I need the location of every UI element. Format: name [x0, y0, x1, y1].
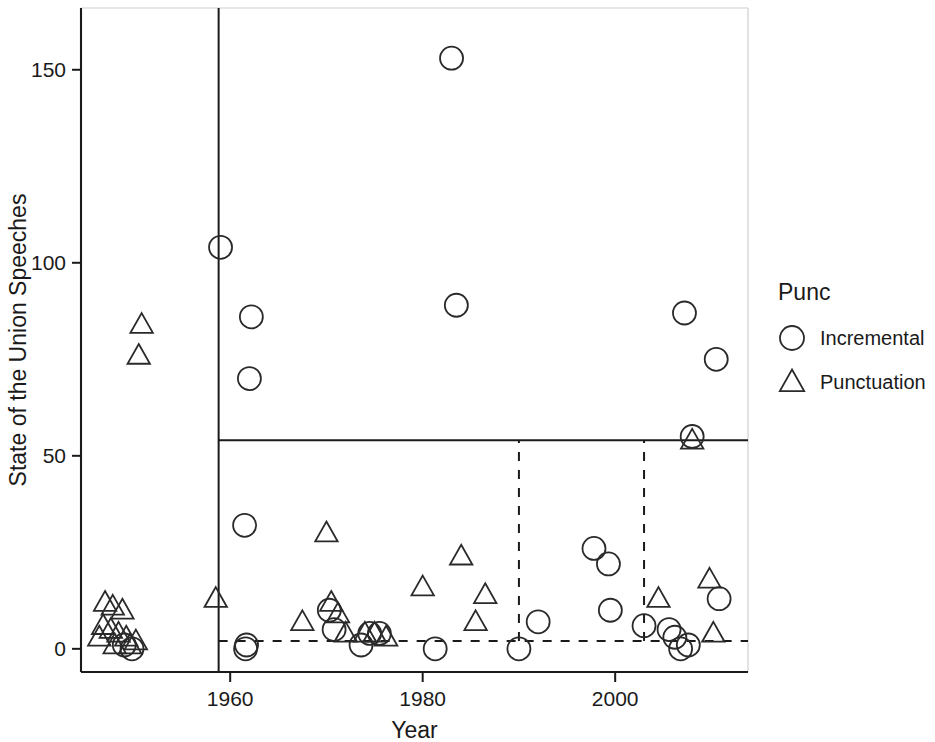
plot-frame: [81, 8, 748, 672]
data-point-incremental: [240, 305, 263, 328]
data-point-incremental: [599, 599, 622, 622]
legend-key-triangle-icon: [780, 370, 804, 392]
x-tick-label: 2000: [592, 687, 639, 710]
data-point-incremental: [677, 633, 700, 656]
data-point-incremental: [705, 348, 728, 371]
legend-key-circle-icon: [780, 326, 804, 350]
y-tick-label: 50: [43, 444, 66, 467]
data-point-incremental: [583, 537, 606, 560]
data-point-incremental: [527, 610, 550, 633]
data-point-incremental: [445, 294, 468, 317]
y-axis-title: State of the Union Speeches: [5, 194, 31, 487]
data-point-incremental: [597, 552, 620, 575]
data-point-punctuation: [291, 610, 313, 630]
legend: PuncIncrementalPunctuation: [778, 279, 926, 393]
data-point-punctuation: [702, 622, 724, 642]
x-axis-title: Year: [391, 717, 438, 742]
data-point-incremental: [708, 587, 731, 610]
x-tick-label: 1980: [399, 687, 446, 710]
axis-labels: 050100150196019802000YearState of the Un…: [5, 58, 639, 742]
x-tick-label: 1960: [207, 687, 254, 710]
data-points: [88, 47, 731, 661]
y-tick-label: 0: [54, 637, 66, 660]
reference-lines: [219, 8, 748, 672]
scatter-plot: 050100150196019802000YearState of the Un…: [0, 0, 935, 742]
data-point-incremental: [233, 514, 256, 537]
y-tick-label: 150: [31, 58, 66, 81]
data-point-incremental: [209, 236, 232, 259]
data-point-punctuation: [315, 522, 337, 542]
data-point-punctuation: [411, 576, 433, 596]
y-tick-label: 100: [31, 251, 66, 274]
data-point-punctuation: [698, 568, 720, 588]
data-point-incremental: [673, 301, 696, 324]
data-point-punctuation: [205, 587, 227, 607]
data-point-punctuation: [130, 313, 152, 333]
data-point-punctuation: [474, 583, 496, 603]
legend-entry-label: Punctuation: [820, 371, 926, 393]
data-point-punctuation: [647, 587, 669, 607]
data-point-punctuation: [128, 344, 150, 364]
chart-root: 050100150196019802000YearState of the Un…: [0, 0, 935, 742]
axis-ticks: [72, 70, 615, 682]
data-point-incremental: [440, 47, 463, 70]
data-point-incremental: [238, 367, 261, 390]
legend-title: Punc: [778, 279, 830, 305]
legend-entry-label: Incremental: [820, 327, 925, 349]
data-point-punctuation: [450, 545, 472, 565]
data-point-punctuation: [464, 610, 486, 630]
